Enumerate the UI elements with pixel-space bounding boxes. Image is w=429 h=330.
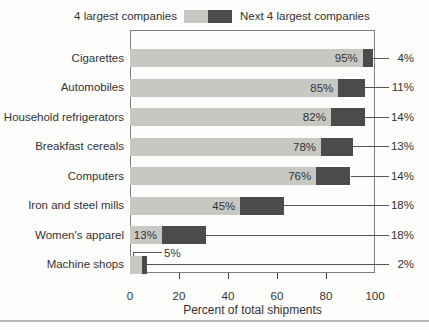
category-label: Cigarettes <box>72 52 124 65</box>
callout-tick <box>133 252 134 256</box>
legend-label-next4: Next 4 largest companies <box>240 10 370 23</box>
callout-line <box>133 252 162 253</box>
bar-segment-top4 <box>130 256 142 274</box>
connector-line <box>365 117 389 118</box>
x-axis-tick <box>326 273 327 279</box>
bar-segment-next4 <box>338 79 365 97</box>
right-value-label: 18% <box>391 229 414 242</box>
bar-value-label: 78% <box>130 138 316 156</box>
legend-swatch-top4 <box>184 10 208 23</box>
category-label: Machine shops <box>47 258 124 271</box>
x-tick-label: 60 <box>259 290 295 303</box>
right-value-label: 13% <box>391 140 414 153</box>
bottom-divider-rule <box>0 320 429 322</box>
connector-line <box>284 205 389 206</box>
connector-line <box>351 176 390 177</box>
right-value-label: 11% <box>392 81 414 94</box>
bar-value-label: 76% <box>130 167 311 185</box>
category-label: Breakfast cereals <box>35 140 124 153</box>
connector-line <box>353 146 389 147</box>
x-tick-label: 0 <box>112 290 148 303</box>
x-tick-label: 80 <box>308 290 344 303</box>
callout-value-label: 5% <box>164 247 181 260</box>
connector-line <box>365 87 389 88</box>
right-value-label: 14% <box>391 111 414 124</box>
concentration-ratio-chart: 4 largest companies Next 4 largest compa… <box>0 0 429 330</box>
right-value-label: 14% <box>391 170 414 183</box>
x-axis-tick <box>228 273 229 279</box>
category-label: Iron and steel mills <box>28 199 124 212</box>
right-value-label: 2% <box>397 258 414 271</box>
bar-segment-next4 <box>162 226 206 244</box>
bar-value-label: 82% <box>130 108 326 126</box>
x-axis-tick <box>277 273 278 279</box>
bar-segment-next4 <box>321 138 353 156</box>
right-value-label: 18% <box>391 199 414 212</box>
legend-swatch-next4 <box>208 10 232 23</box>
bar-segment-next4 <box>240 197 284 215</box>
bar-segment-next4 <box>363 49 373 67</box>
connector-line <box>373 58 389 59</box>
x-tick-label: 100 <box>357 290 393 303</box>
bar-value-label: 95% <box>130 49 358 67</box>
bar-value-label: 45% <box>130 197 235 215</box>
right-value-label: 4% <box>397 52 414 65</box>
category-label: Household refrigerators <box>4 111 124 124</box>
category-label: Computers <box>68 170 124 183</box>
bar-value-label: 13% <box>130 226 157 244</box>
x-tick-label: 40 <box>210 290 246 303</box>
bar-segment-next4 <box>316 167 350 185</box>
connector-line <box>206 235 389 236</box>
connector-line <box>147 264 389 265</box>
category-label: Automobiles <box>61 81 124 94</box>
bar-segment-next4 <box>331 108 365 126</box>
x-axis-title: Percent of total shipments <box>130 303 375 317</box>
category-label: Women's apparel <box>35 229 124 242</box>
bar-value-label: 85% <box>130 79 333 97</box>
x-axis-tick <box>179 273 180 279</box>
legend-label-top4: 4 largest companies <box>74 10 177 23</box>
x-tick-label: 20 <box>161 290 197 303</box>
